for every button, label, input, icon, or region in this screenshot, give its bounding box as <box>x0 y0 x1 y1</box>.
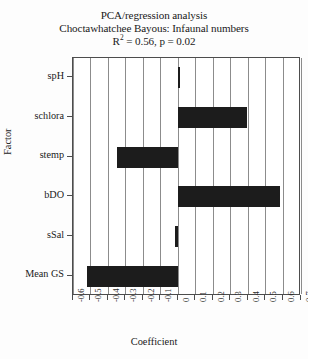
gridline <box>301 58 302 294</box>
bar <box>117 147 178 168</box>
x-tick-label: 0.1 <box>198 291 208 302</box>
gridline <box>125 58 126 294</box>
y-tick-label: stemp <box>40 149 64 160</box>
y-tick-label: sSal <box>47 229 64 240</box>
gridline <box>265 58 266 294</box>
chart-title: PCA/regression analysis <box>0 9 308 22</box>
x-tick-mark <box>300 295 301 300</box>
gridline <box>160 58 161 294</box>
gridline <box>108 58 109 294</box>
x-tick-label: 0.2 <box>216 291 226 302</box>
x-tick-label: -0.6 <box>76 288 86 302</box>
x-tick-label: 0.5 <box>268 291 278 302</box>
y-tick-mark <box>67 195 72 196</box>
gridline <box>90 58 91 294</box>
x-tick-mark <box>194 295 195 300</box>
y-tick-label: spH <box>48 70 64 81</box>
y-tick-mark <box>67 275 72 276</box>
x-tick-mark <box>124 295 125 300</box>
y-tick-mark <box>67 116 72 117</box>
stat-prefix: R <box>113 35 120 47</box>
y-axis-title: Factor <box>2 128 13 155</box>
gridline <box>248 58 249 294</box>
x-tick-mark <box>229 295 230 300</box>
chart-figure: PCA/regression analysis Choctawhatchee B… <box>0 0 308 359</box>
stat-rest: = 0.56, p = 0.02 <box>124 35 196 47</box>
x-tick-mark <box>159 295 160 300</box>
y-tick-mark <box>67 76 72 77</box>
gridline <box>178 58 179 294</box>
x-tick-label: -0.3 <box>128 288 138 302</box>
x-tick-label: 0.4 <box>251 291 261 302</box>
x-tick-mark <box>282 295 283 300</box>
x-tick-mark <box>107 295 108 300</box>
gridline <box>143 58 144 294</box>
x-tick-mark <box>72 295 73 300</box>
gridline <box>283 58 284 294</box>
y-tick-mark <box>67 156 72 157</box>
gridline <box>230 58 231 294</box>
x-tick-label: -0.2 <box>146 288 156 302</box>
bar <box>178 107 246 128</box>
y-tick-label: Mean GS <box>25 268 64 279</box>
x-tick-label: 0.3 <box>233 291 243 302</box>
gridline <box>195 58 196 294</box>
chart-subtitle: Choctawhatchee Bayous: Infaunal numbers <box>0 22 308 35</box>
x-tick-label: 0.6 <box>286 291 296 302</box>
x-tick-label: 0 <box>181 298 191 302</box>
bar <box>178 67 180 88</box>
x-tick-mark <box>264 295 265 300</box>
x-tick-label: -0.5 <box>93 288 103 302</box>
x-tick-mark <box>89 295 90 300</box>
bar <box>175 226 179 247</box>
chart-stat-annotation: R2 = 0.56, p = 0.02 <box>0 35 308 48</box>
x-tick-mark <box>177 295 178 300</box>
x-tick-mark <box>142 295 143 300</box>
y-tick-mark <box>67 235 72 236</box>
bar <box>87 266 178 287</box>
chart-title-block: PCA/regression analysis Choctawhatchee B… <box>0 9 308 48</box>
x-tick-mark <box>212 295 213 300</box>
x-tick-label: 0.7 <box>304 291 309 302</box>
gridline <box>73 58 74 294</box>
y-tick-label: schlora <box>35 110 64 121</box>
x-axis-title: Coefficient <box>0 336 308 347</box>
gridline <box>213 58 214 294</box>
y-tick-label: bDO <box>44 189 64 200</box>
x-tick-mark <box>247 295 248 300</box>
plot-area <box>72 57 300 295</box>
bar <box>178 186 280 207</box>
x-tick-label: -0.4 <box>111 288 121 302</box>
x-tick-label: -0.1 <box>163 288 173 302</box>
